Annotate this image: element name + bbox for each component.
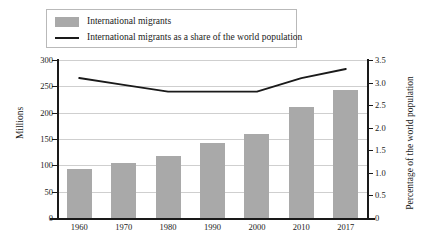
legend-label-line: International migrants as a share of the… xyxy=(87,32,302,43)
legend-item-line: International migrants as a share of the… xyxy=(55,30,302,45)
left-tick-mark xyxy=(52,113,57,114)
right-tick-mark xyxy=(368,83,373,84)
legend-bar-swatch-icon xyxy=(55,17,79,27)
right-tick-mark xyxy=(368,150,373,151)
left-tick-mark xyxy=(52,60,57,61)
x-tick-label-2010: 2010 xyxy=(293,222,310,232)
right-tick-mark xyxy=(368,195,373,196)
left-tick-mark xyxy=(52,165,57,166)
bottom-axis-line xyxy=(50,218,375,220)
left-tick-mark xyxy=(52,139,57,140)
x-tick-label-2017: 2017 xyxy=(337,222,354,232)
left-tick-mark xyxy=(52,218,57,219)
right-tick-label: 1.5 xyxy=(375,145,386,155)
x-tick-label-1990: 1990 xyxy=(204,222,221,232)
chart-legend: International migrants International mig… xyxy=(46,9,297,48)
right-tick-label: 1.0 xyxy=(375,168,386,178)
right-tick-label: 3.0 xyxy=(375,78,386,88)
legend-line-swatch-icon xyxy=(55,37,79,39)
right-tick-mark xyxy=(368,105,373,106)
legend-item-bars: International migrants xyxy=(55,14,171,29)
migration-chart: International migrants International mig… xyxy=(0,0,427,242)
plot-area xyxy=(57,60,368,218)
x-tick-label-1970: 1970 xyxy=(115,222,132,232)
left-tick-mark xyxy=(52,192,57,193)
x-tick-label-2000: 2000 xyxy=(248,222,265,232)
legend-label-bars: International migrants xyxy=(87,16,171,27)
right-tick-label: 0 xyxy=(375,213,379,223)
right-axis-title: Percentage of the world population xyxy=(405,63,415,223)
left-tick-mark xyxy=(52,86,57,87)
right-tick-mark xyxy=(368,60,373,61)
right-tick-mark xyxy=(368,173,373,174)
line-path xyxy=(79,69,346,92)
x-tick-label-1980: 1980 xyxy=(160,222,177,232)
right-tick-mark xyxy=(368,218,373,219)
right-tick-label: 0.5 xyxy=(375,190,386,200)
x-tick-label-1960: 1960 xyxy=(71,222,88,232)
line-series xyxy=(57,60,368,218)
right-tick-label: 2.0 xyxy=(375,123,386,133)
right-tick-mark xyxy=(368,128,373,129)
left-axis-title: Millions xyxy=(15,83,25,163)
right-axis-ticks: 00.51.01.52.02.53.03.5 xyxy=(375,60,401,218)
left-axis-line xyxy=(57,59,59,219)
right-tick-label: 3.5 xyxy=(375,55,386,65)
right-tick-label: 2.5 xyxy=(375,100,386,110)
